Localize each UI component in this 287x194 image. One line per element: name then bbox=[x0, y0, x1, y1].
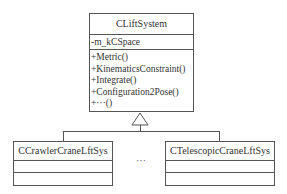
attributes-section: -m_kCSpace bbox=[90, 34, 193, 49]
method: +···() bbox=[90, 98, 193, 110]
method: +Metric() bbox=[90, 52, 193, 64]
attributes-section bbox=[166, 160, 274, 172]
ellipsis: ··· bbox=[136, 155, 146, 166]
methods-section bbox=[14, 172, 112, 185]
connector-line bbox=[63, 131, 220, 132]
class-name: CLiftSystem bbox=[90, 14, 193, 34]
method: +KinematicsConstraint() bbox=[90, 64, 193, 76]
methods-section: +Metric() +KinematicsConstraint() +Integ… bbox=[90, 49, 193, 110]
attributes-section bbox=[14, 160, 112, 172]
method: +Integrate() bbox=[90, 75, 193, 87]
class-name: CCrawlerCraneLftSys bbox=[14, 142, 112, 160]
methods-section bbox=[166, 172, 274, 185]
attribute: -m_kCSpace bbox=[90, 35, 193, 49]
class-ccrawlercranelftsys: CCrawlerCraneLftSys bbox=[13, 141, 113, 186]
method: +Configuration2Pose() bbox=[90, 87, 193, 99]
class-cliftsystem: CLiftSystem -m_kCSpace +Metric() +Kinema… bbox=[89, 13, 194, 112]
class-name: CTelescopicCraneLftSys bbox=[166, 142, 274, 160]
class-ctelescopiccranelftsys: CTelescopicCraneLftSys bbox=[165, 141, 275, 186]
